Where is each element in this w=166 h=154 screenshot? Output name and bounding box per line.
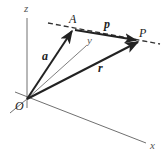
x-axis <box>15 92 146 143</box>
z-axis-label: z <box>23 2 29 14</box>
point-A-label: A <box>68 12 77 26</box>
vector-diagram: z y x O A P a p r <box>0 0 166 154</box>
x-axis-label: x <box>149 139 155 151</box>
vector-p-arrow <box>75 30 136 40</box>
vector-a-label: a <box>42 49 48 63</box>
y-axis-label: y <box>86 34 92 46</box>
vector-p-label: p <box>103 17 110 31</box>
origin-label: O <box>15 99 24 113</box>
point-P-label: P <box>138 26 147 40</box>
vector-r-label: r <box>98 61 103 75</box>
